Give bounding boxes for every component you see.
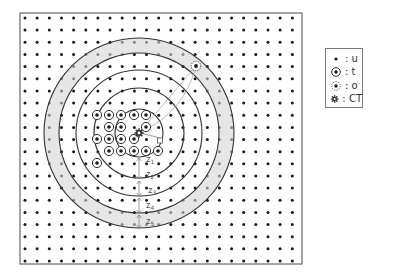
z-label-2: z2 <box>146 169 154 180</box>
ct-gear-icon <box>330 93 339 105</box>
legend-label-ct: : CT <box>342 93 362 105</box>
t-ringed-dot-icon <box>330 66 342 78</box>
legend-item-ct: : CT <box>330 93 362 107</box>
o-dotted-ring-icon <box>330 80 342 92</box>
z-arrows <box>137 158 141 228</box>
legend-item-u: : u <box>330 52 362 66</box>
d-box <box>158 138 163 143</box>
legend-item-t: : t <box>330 66 362 80</box>
t-markers <box>92 61 200 167</box>
ct-gear-icon <box>134 128 143 137</box>
legend-label-u: : u <box>345 53 358 65</box>
legend-item-o: : o <box>330 79 362 93</box>
legend: : u : t : o : CT <box>325 48 363 108</box>
u-dot-icon <box>330 53 342 65</box>
legend-label-o: : o <box>345 80 358 92</box>
z-label-1: z1 <box>146 154 154 165</box>
legend-label-t: : t <box>345 66 355 78</box>
z-label-3: z3 <box>148 185 156 196</box>
network-diagram: z1z2z3z4z5 <box>0 0 396 277</box>
z-label-4: z4 <box>146 200 154 211</box>
